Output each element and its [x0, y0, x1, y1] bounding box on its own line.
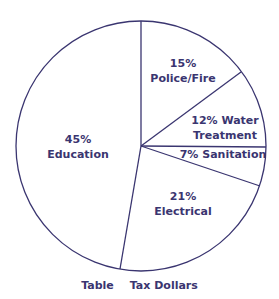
- police-fire-name: Police/Fire: [150, 71, 215, 86]
- caption-prefix: Table: [81, 279, 114, 292]
- caption-title: Tax Dollars: [130, 279, 198, 292]
- sanitation-text: 7% Sanitation: [180, 147, 267, 162]
- police-fire-percent: 15%: [150, 56, 215, 71]
- label-education: 45% Education: [47, 132, 109, 162]
- electrical-percent: 21%: [154, 189, 211, 204]
- chart-caption: TableTax Dollars: [0, 279, 279, 292]
- label-police-fire: 15% Police/Fire: [150, 56, 215, 86]
- electrical-name: Electrical: [154, 204, 211, 219]
- water-treatment-percent: 12% Water: [191, 113, 258, 128]
- education-percent: 45%: [47, 132, 109, 147]
- label-sanitation: 7% Sanitation: [180, 147, 267, 162]
- label-water-treatment: 12% Water Treatment: [191, 113, 258, 143]
- label-electrical: 21% Electrical: [154, 189, 211, 219]
- water-treatment-name: Treatment: [191, 128, 258, 143]
- education-name: Education: [47, 147, 109, 162]
